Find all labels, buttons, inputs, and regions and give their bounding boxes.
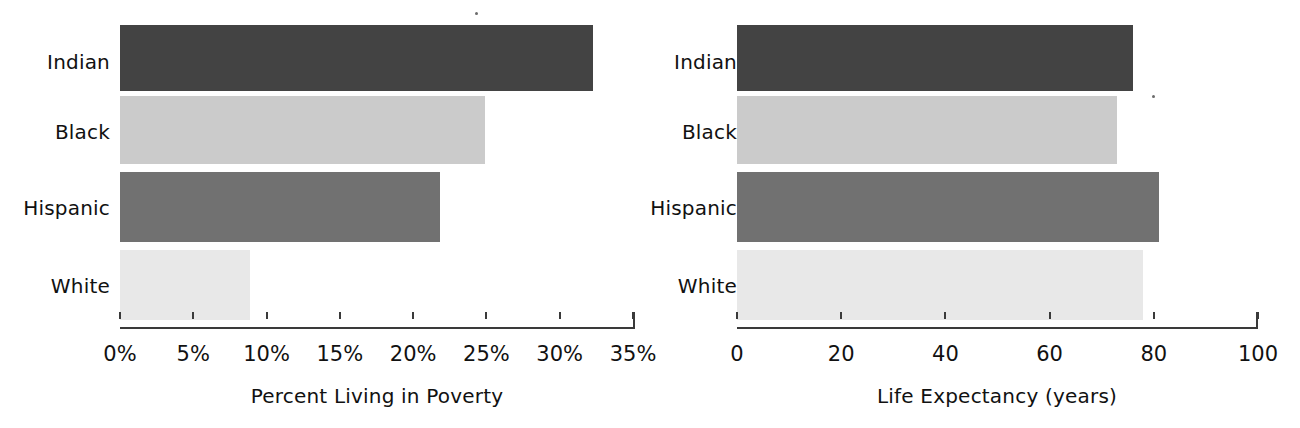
- poverty-x-tick-label: 20%: [390, 344, 437, 365]
- life-axis-title: Life Expectancy (years): [877, 385, 1117, 407]
- scan-speck: [475, 12, 478, 15]
- bar-life-hispanic: [737, 172, 1159, 242]
- poverty-category-label-indian: Indian: [47, 52, 110, 72]
- life-x-tick: [944, 312, 946, 319]
- panel-percent-living-in-poverty: Indian Black Hispanic White 0%5%10%15%20…: [0, 0, 650, 428]
- poverty-x-tick-label: 5%: [177, 344, 210, 365]
- poverty-x-tick: [339, 312, 341, 319]
- figure-two-panel-bar-charts: Indian Black Hispanic White 0%5%10%15%20…: [0, 0, 1300, 428]
- life-x-tick: [736, 312, 738, 319]
- poverty-x-tick-label: 15%: [317, 344, 364, 365]
- life-plot-area: [737, 0, 1262, 330]
- poverty-category-label-hispanic: Hispanic: [23, 198, 110, 218]
- life-category-label-white: White: [678, 276, 737, 296]
- poverty-x-tick: [119, 312, 121, 319]
- life-category-axis: Indian Black Hispanic White: [650, 0, 737, 428]
- bar-poverty-white: [120, 250, 250, 320]
- life-category-label-black: Black: [682, 122, 737, 142]
- poverty-x-tick: [266, 312, 268, 319]
- poverty-x-tick: [485, 312, 487, 319]
- panel-life-expectancy: Indian Black Hispanic White 020406080100…: [650, 0, 1300, 428]
- life-x-tick: [1257, 312, 1259, 319]
- bar-life-indian: [737, 25, 1133, 91]
- bar-poverty-indian: [120, 25, 593, 91]
- bar-poverty-black: [120, 96, 485, 164]
- poverty-axis-title: Percent Living in Poverty: [251, 385, 504, 407]
- life-category-label-hispanic: Hispanic: [650, 198, 737, 218]
- poverty-x-tick-label: 25%: [463, 344, 510, 365]
- life-x-tick-label: 60: [1036, 344, 1063, 365]
- life-x-tick-label: 20: [828, 344, 855, 365]
- poverty-x-tick: [632, 312, 634, 319]
- life-x-tick-label: 80: [1140, 344, 1167, 365]
- life-x-axis-line: [737, 327, 1258, 329]
- life-x-tick-label: 100: [1238, 344, 1278, 365]
- bar-life-black: [737, 96, 1117, 164]
- scan-speck: [1152, 95, 1155, 98]
- bar-poverty-hispanic: [120, 172, 440, 242]
- poverty-x-tick: [412, 312, 414, 319]
- poverty-x-tick: [192, 312, 194, 319]
- poverty-x-axis-line: [120, 327, 635, 329]
- poverty-x-tick: [559, 312, 561, 319]
- poverty-x-tick-label: 0%: [103, 344, 136, 365]
- poverty-x-tick-label: 30%: [536, 344, 583, 365]
- poverty-category-label-white: White: [51, 276, 110, 296]
- life-category-label-indian: Indian: [674, 52, 737, 72]
- life-x-tick-label: 40: [932, 344, 959, 365]
- life-x-tick: [840, 312, 842, 319]
- bar-life-white: [737, 250, 1143, 320]
- poverty-category-axis: Indian Black Hispanic White: [0, 0, 110, 428]
- poverty-x-tick-label: 10%: [243, 344, 290, 365]
- poverty-plot-area: [120, 0, 640, 330]
- life-x-tick-label: 0: [730, 344, 743, 365]
- life-x-tick: [1153, 312, 1155, 319]
- life-x-tick: [1049, 312, 1051, 319]
- poverty-category-label-black: Black: [55, 122, 110, 142]
